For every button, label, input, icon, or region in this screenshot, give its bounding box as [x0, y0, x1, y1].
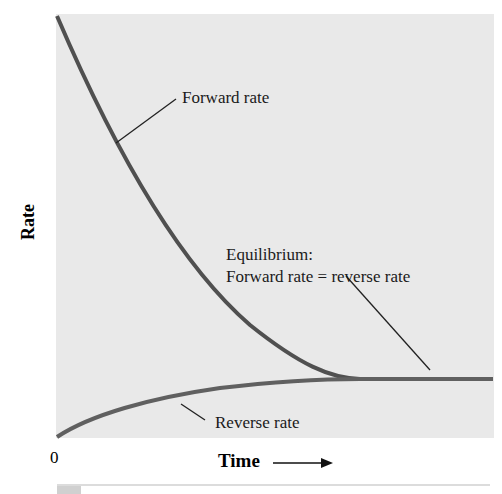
arrow-right-icon	[271, 456, 335, 470]
decorative-block	[57, 486, 81, 494]
origin-label: 0	[50, 448, 59, 468]
forward-rate-curve	[57, 16, 493, 379]
forward-leader-line	[116, 99, 176, 143]
forward-rate-label: Forward rate	[182, 88, 269, 108]
equilibrium-leader-line	[346, 276, 430, 370]
equilibrium-desc-label: Forward rate = reverse rate	[226, 267, 410, 287]
x-axis-label: Time	[218, 450, 335, 472]
x-axis-title: Time	[218, 450, 260, 471]
divider	[57, 484, 490, 486]
equilibrium-title-label: Equilibrium:	[226, 245, 313, 265]
reverse-rate-label: Reverse rate	[215, 413, 299, 433]
reverse-leader-line	[181, 404, 205, 420]
y-axis-label: Rate	[18, 204, 39, 240]
